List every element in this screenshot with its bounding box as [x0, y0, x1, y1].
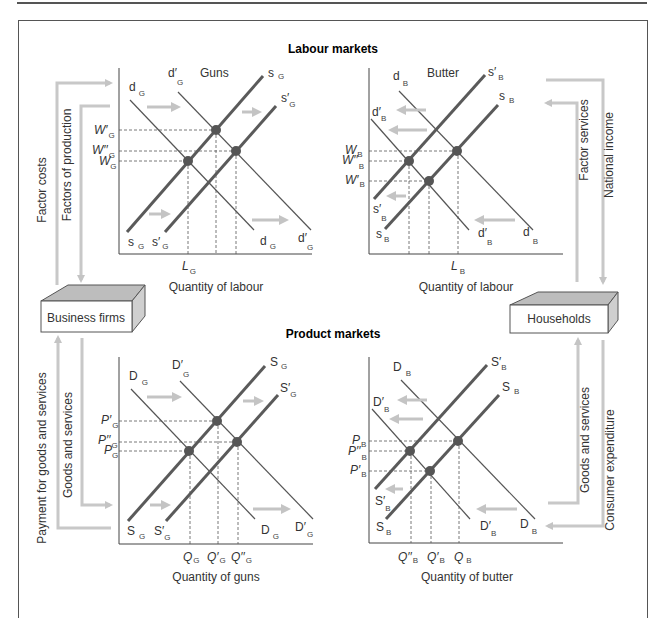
- svg-text:sG: sG: [128, 235, 144, 251]
- goods-services-right-arrow: [548, 340, 578, 503]
- demand-curve-DB-prime: [372, 409, 470, 519]
- label-national-income: National income: [602, 112, 616, 198]
- households-label: Households: [527, 312, 590, 326]
- svg-text:SB: SB: [376, 520, 391, 537]
- svg-text:d′G: d′G: [168, 66, 183, 87]
- supply-curve-SG: [128, 366, 265, 521]
- supply-curve-sG: [127, 76, 263, 232]
- svg-text:Q′′G: Q′′G: [231, 550, 252, 565]
- svg-text:DG: DG: [129, 369, 148, 387]
- factor-services-arrow: [547, 103, 577, 282]
- x-axis-title: Quantity of labour: [419, 280, 514, 294]
- equilibrium-point: [212, 416, 222, 426]
- svg-text:S′G: S′G: [154, 524, 171, 542]
- svg-text:P′B: P′B: [350, 463, 367, 479]
- svg-text:LB: LB: [451, 259, 465, 276]
- svg-text:QB: QB: [454, 550, 472, 565]
- equilibrium-point: [232, 437, 242, 447]
- national-income-arrow: [546, 80, 603, 282]
- svg-text:sG: sG: [268, 66, 284, 81]
- svg-text:sB: sB: [376, 227, 389, 244]
- svg-text:D′B: D′B: [480, 519, 496, 538]
- equilibrium-point: [404, 156, 414, 166]
- svg-text:W′B: W′B: [345, 173, 365, 189]
- svg-text:dG: dG: [129, 80, 145, 98]
- chart-labour-butter: Butter dB s′B sB d′B s′B sB d′B dB WB W′…: [342, 65, 563, 294]
- svg-text:S′G: S′G: [280, 381, 297, 399]
- svg-text:s′B: s′B: [373, 202, 387, 223]
- equilibrium-point: [183, 156, 193, 166]
- x-axis-title: Quantity of guns: [172, 570, 259, 584]
- households-box: Households: [510, 292, 618, 333]
- business-firms-box: Business firms: [41, 285, 145, 332]
- svg-text:SG: SG: [270, 355, 287, 371]
- svg-text:SB: SB: [502, 380, 519, 396]
- x-axis-title: Quantity of labour: [169, 280, 264, 294]
- chart-title-butter: Butter: [427, 66, 459, 80]
- label-goods-services-left: Goods and services: [61, 392, 75, 498]
- equilibrium-point: [184, 446, 194, 456]
- svg-text:DB: DB: [393, 360, 411, 378]
- label-consumer-expenditure: Consumer expenditure: [603, 409, 617, 531]
- x-axis-title: Quantity of butter: [421, 570, 513, 584]
- equilibrium-point: [453, 436, 463, 446]
- equilibrium-point: [211, 125, 221, 135]
- label-factor-services: Factor services: [577, 99, 591, 180]
- svg-text:s′G: s′G: [152, 235, 168, 251]
- svg-text:DG: DG: [261, 523, 279, 541]
- chart-labour-guns: Guns dG d′G sG s′G sG s′G dG d′G W′G W′′…: [92, 66, 313, 294]
- svg-text:d′G: d′G: [298, 231, 313, 252]
- label-payment-for-goods: Payment for goods and services: [35, 372, 49, 543]
- section-title-labour-markets: Labour markets: [288, 42, 378, 56]
- chart-product-butter: DB S′B SB D′B S′B SB D′B DB PB P′′B P′B …: [348, 355, 563, 584]
- svg-text:dB: dB: [393, 69, 408, 88]
- svg-text:LG: LG: [182, 259, 196, 276]
- chart-product-guns: DG D′G SG S′G SG S′G DG D′G P′G P′′G PG …: [98, 355, 313, 584]
- svg-text:D′B: D′B: [373, 395, 389, 414]
- svg-text:DB: DB: [520, 517, 537, 536]
- svg-text:P′G: P′G: [101, 413, 119, 430]
- svg-text:d′B: d′B: [478, 226, 492, 247]
- svg-text:S′B: S′B: [375, 494, 391, 513]
- svg-text:SG: SG: [127, 524, 145, 541]
- equilibrium-point: [424, 176, 434, 186]
- equilibrium-point: [231, 146, 241, 156]
- label-goods-services-right: Goods and services: [578, 387, 592, 493]
- svg-text:sB: sB: [499, 89, 514, 105]
- svg-text:W′G: W′G: [94, 123, 115, 140]
- equilibrium-point: [425, 466, 435, 476]
- svg-text:S′B: S′B: [491, 355, 507, 372]
- svg-text:Q′B: Q′B: [427, 550, 445, 565]
- svg-text:s′B: s′B: [488, 65, 504, 82]
- svg-text:Q′G: Q′G: [207, 550, 226, 565]
- label-factor-costs: Factor costs: [35, 157, 49, 222]
- circular-flow-diagram: Labour markets Product markets Factor co…: [0, 0, 666, 618]
- svg-text:d′B: d′B: [372, 105, 386, 123]
- business-firms-label: Business firms: [47, 311, 125, 325]
- svg-text:dG: dG: [260, 234, 276, 251]
- section-title-product-markets: Product markets: [286, 327, 381, 341]
- svg-text:s′G: s′G: [281, 91, 295, 109]
- consumer-expenditure-arrow: [548, 340, 603, 526]
- svg-text:QG: QG: [183, 550, 200, 565]
- svg-text:D′G: D′G: [172, 358, 189, 379]
- demand-curve-dG: [130, 100, 254, 230]
- label-factors-of-production: Factors of production: [60, 109, 74, 222]
- chart-title-guns: Guns: [200, 66, 229, 80]
- equilibrium-point: [452, 146, 462, 156]
- svg-text:Q′′B: Q′′B: [398, 550, 418, 565]
- demand-curve-dB: [399, 91, 533, 230]
- equilibrium-point: [405, 446, 415, 456]
- svg-text:D′G: D′G: [295, 520, 313, 539]
